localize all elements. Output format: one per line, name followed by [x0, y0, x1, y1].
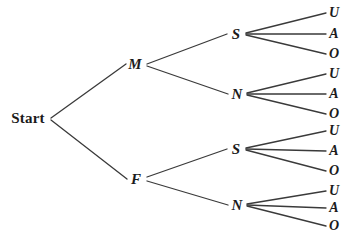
tree-node-m-n-o: O: [329, 107, 339, 121]
tree-edge-start-f: [51, 120, 127, 179]
tree-edge-mn-to-o: [247, 95, 326, 114]
tree-edge-fn-to-a: [247, 205, 326, 208]
tree-edge-fs-to-u: [246, 131, 326, 148]
tree-node-f-s: S: [232, 142, 240, 157]
tree-node-m-n: N: [232, 87, 243, 102]
tree-edge-fs-to-o: [246, 150, 326, 171]
tree-node-f: F: [131, 172, 141, 187]
tree-node-m-s-a: A: [329, 27, 338, 41]
tree-node-f-s-u: U: [329, 124, 339, 138]
tree-node-m-n-a: A: [329, 87, 338, 101]
tree-node-m-s-o: O: [329, 47, 339, 61]
tree-node-f-s-o: O: [329, 164, 339, 178]
tree-node-m-s: S: [232, 27, 240, 42]
tree-edge-start-m: [51, 64, 126, 118]
tree-edge-fs-to-a: [246, 149, 326, 151]
tree-node-start: Start: [11, 111, 45, 126]
tree-node-f-n-u: U: [329, 184, 339, 198]
tree-edge-m-to-n: [147, 66, 228, 94]
tree-node-f-n-o: O: [329, 219, 339, 233]
tree-edge-m-to-s: [147, 34, 227, 64]
tree-edge-fn-to-o: [247, 206, 326, 226]
tree-edge-ms-to-o: [246, 35, 326, 54]
tree-edge-f-to-s: [147, 149, 227, 177]
tree-node-m: M: [128, 57, 141, 72]
tree-edge-mn-to-u: [247, 74, 326, 93]
tree-edge-f-to-n: [147, 181, 228, 205]
tree-node-m-s-u: U: [329, 6, 339, 20]
tree-node-f-n: N: [232, 198, 243, 213]
tree-node-f-s-a: A: [329, 144, 338, 158]
tree-edge-ms-to-u: [246, 13, 326, 33]
tree-node-m-n-u: U: [329, 67, 339, 81]
tree-edges: [0, 0, 352, 235]
tree-diagram: StartMFSNSNUAOUAOUAOUAO: [0, 0, 352, 235]
tree-node-f-n-a: A: [329, 201, 338, 215]
tree-edge-fn-to-u: [247, 191, 326, 204]
